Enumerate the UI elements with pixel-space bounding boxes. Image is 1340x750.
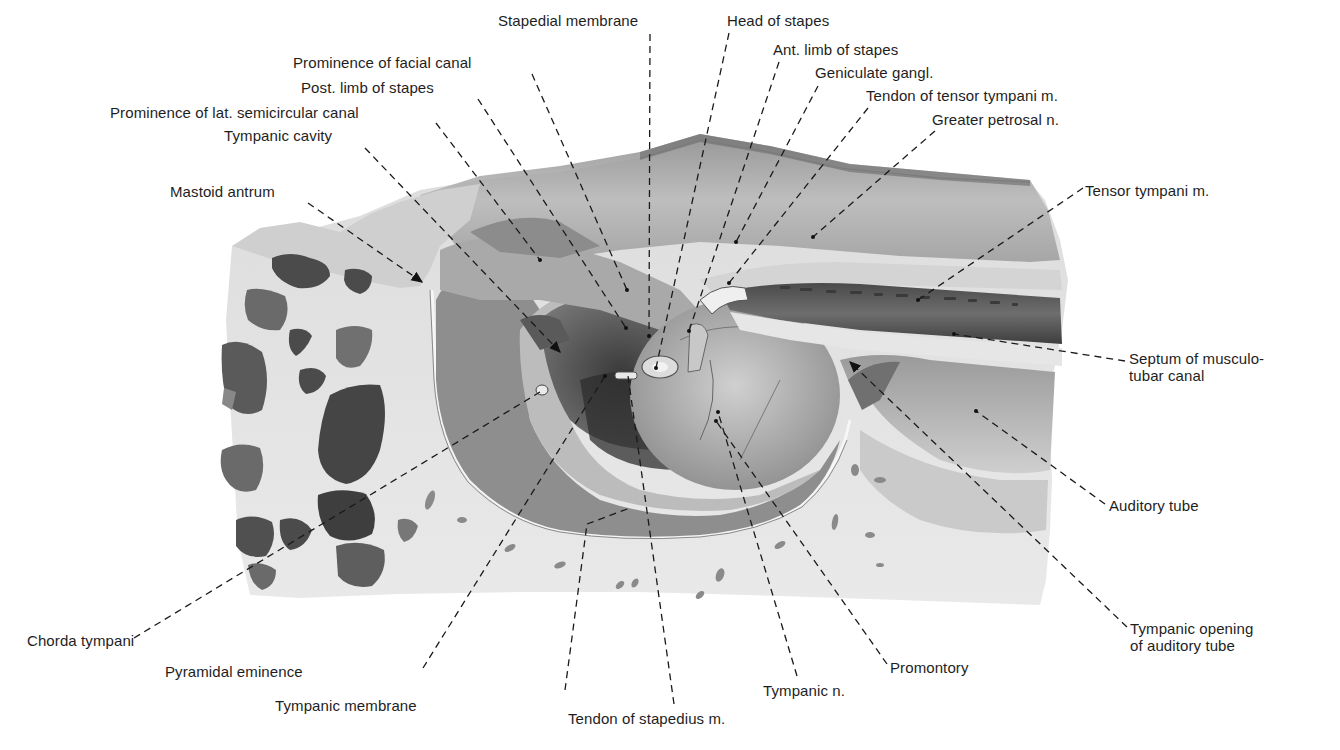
label-geniculate-gangl: Geniculate gangl. — [815, 64, 933, 81]
label-tendon-of-stapedius-m: Tendon of stapedius m. — [568, 710, 725, 727]
label-mastoid-antrum: Mastoid antrum — [170, 183, 275, 200]
label-stapedial-membrane: Stapedial membrane — [498, 12, 638, 29]
label-ant-limb-of-stapes: Ant. limb of stapes — [773, 41, 898, 58]
label-auditory-tube: Auditory tube — [1109, 497, 1199, 514]
label-tympanic-membrane: Tympanic membrane — [275, 697, 417, 714]
label-greater-petrosal-n: Greater petrosal n. — [932, 111, 1059, 128]
label-septum-musculotubar-canal: Septum of musculo- tubar canal — [1129, 350, 1329, 384]
label-pyramidal-eminence: Pyramidal eminence — [165, 663, 303, 680]
label-tendon-of-tensor-tympani: Tendon of tensor tympani m. — [866, 87, 1058, 104]
label-prominence-of-facial-canal: Prominence of facial canal — [293, 54, 472, 71]
label-tympanic-n: Tympanic n. — [763, 682, 845, 699]
label-promontory: Promontory — [890, 659, 969, 676]
label-prominence-lat-semicircular-canal: Prominence of lat. semicircular canal — [110, 104, 359, 121]
label-tensor-tympani-m: Tensor tympani m. — [1085, 182, 1209, 199]
label-chorda-tympani: Chorda tympani — [27, 632, 134, 649]
label-head-of-stapes: Head of stapes — [727, 12, 829, 29]
label-tympanic-cavity: Tympanic cavity — [224, 127, 332, 144]
label-post-limb-of-stapes: Post. limb of stapes — [301, 79, 434, 96]
label-tympanic-opening-auditory-tube: Tympanic opening of auditory tube — [1130, 620, 1330, 654]
